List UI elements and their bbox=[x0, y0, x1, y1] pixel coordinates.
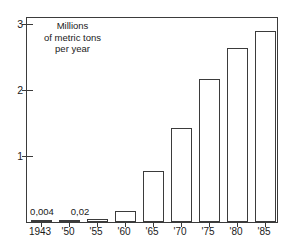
x-tick-label-1975: '75 bbox=[201, 227, 214, 237]
y-axis-caption-line-1: Millions bbox=[44, 20, 101, 32]
x-tick-label-1965: '65 bbox=[145, 227, 158, 237]
bar-1975 bbox=[199, 79, 220, 222]
x-tick-label-1960: '60 bbox=[117, 227, 130, 237]
bar-1970 bbox=[171, 128, 192, 222]
x-tick-label-1943: 1943 bbox=[29, 227, 51, 237]
y-tick-mark-inner bbox=[28, 24, 33, 25]
y-tick-label: 2 bbox=[17, 85, 23, 96]
y-axis-caption-line-2: of metric tons bbox=[44, 32, 101, 44]
x-tick-label-1955: '55 bbox=[89, 227, 102, 237]
annotation-1950: 0,02 bbox=[71, 207, 90, 217]
bar-1980 bbox=[227, 48, 248, 222]
bar-1965 bbox=[143, 171, 164, 222]
x-tick-label-1980: '80 bbox=[229, 227, 242, 237]
y-tick-mark-inner bbox=[28, 90, 33, 91]
x-tick-label-1985: '85 bbox=[257, 227, 270, 237]
y-tick-label: 1 bbox=[17, 151, 23, 162]
y-tick-label: 3 bbox=[17, 19, 23, 30]
annotation-1943: 0,004 bbox=[30, 207, 54, 217]
y-axis-caption-line-3: per year bbox=[44, 43, 101, 55]
bar-1985 bbox=[255, 31, 276, 222]
x-tick-label-1970: '70 bbox=[173, 227, 186, 237]
x-tick-label-1950: '50 bbox=[61, 227, 74, 237]
y-axis-caption: Millions of metric tons per year bbox=[44, 20, 101, 55]
bar-1960 bbox=[115, 211, 136, 223]
bar-chart: 1 2 3 bbox=[0, 0, 293, 251]
y-tick-mark-inner bbox=[28, 156, 33, 157]
